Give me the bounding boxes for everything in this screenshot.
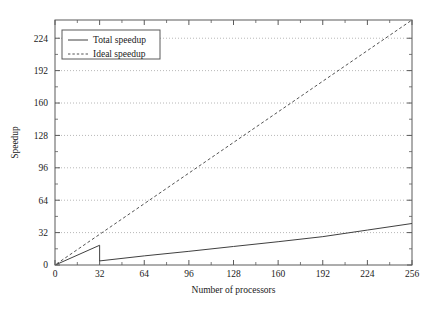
x-tick-label: 96 bbox=[184, 269, 194, 279]
x-tick-label: 192 bbox=[316, 269, 331, 279]
x-tick-label: 256 bbox=[405, 269, 420, 279]
x-tick-label: 0 bbox=[53, 269, 58, 279]
y-tick-label: 96 bbox=[39, 163, 49, 173]
x-axis-title: Number of processors bbox=[192, 285, 276, 295]
y-tick-label: 192 bbox=[34, 66, 49, 76]
y-tick-label: 0 bbox=[43, 260, 48, 270]
x-tick-label: 160 bbox=[271, 269, 286, 279]
y-tick-label: 224 bbox=[34, 34, 49, 44]
legend: Total speedupIdeal speedup bbox=[62, 30, 160, 59]
x-tick-label: 224 bbox=[360, 269, 375, 279]
chart-figure: 0326496128160192224256 03264961281601922… bbox=[0, 0, 435, 310]
y-axis-title: Speedup bbox=[10, 126, 20, 159]
y-tick-label: 64 bbox=[39, 196, 49, 206]
y-tick-label: 32 bbox=[39, 228, 49, 238]
speedup-line-chart: 0326496128160192224256 03264961281601922… bbox=[0, 0, 435, 310]
y-tick-label: 160 bbox=[34, 98, 49, 108]
x-tick-label: 32 bbox=[95, 269, 105, 279]
legend-label: Total speedup bbox=[93, 35, 146, 45]
legend-label: Ideal speedup bbox=[93, 49, 146, 59]
y-tick-label: 128 bbox=[34, 131, 49, 141]
x-tick-label: 64 bbox=[140, 269, 150, 279]
x-tick-label: 128 bbox=[226, 269, 241, 279]
